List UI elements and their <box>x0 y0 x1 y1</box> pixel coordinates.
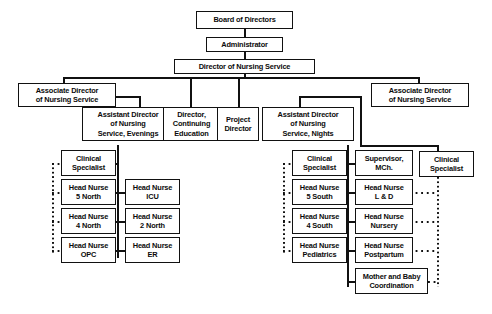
node-director-continuing-education[interactable]: Director, Continuing Education <box>163 107 220 141</box>
node-clinical-specialist-mch[interactable]: Clinical Specialist <box>419 151 474 177</box>
connector-asst-evenings-trunk <box>117 145 119 258</box>
dotted-link-mother-and-baby-coordination <box>428 281 438 283</box>
node-assistant-director-nights[interactable]: Assistant Director of Nursing Service, N… <box>262 107 354 141</box>
connector-assoc-left-to-asst-evenings-h <box>116 96 140 98</box>
connector-administrator-to-dns <box>244 51 246 59</box>
connector-main-bus <box>63 77 420 79</box>
node-head-nurse-5-south[interactable]: Head Nurse 5 South <box>292 179 347 205</box>
node-head-nurse-5-north[interactable]: Head Nurse 5 North <box>61 179 116 205</box>
connector-bus-to-asst-nights <box>299 96 301 107</box>
node-head-nurse-pediatrics[interactable]: Head Nurse Pediatrics <box>292 237 347 263</box>
node-clinical-specialist-evenings[interactable]: Clinical Specialist <box>61 150 116 176</box>
connector-bus-to-project-director <box>238 77 240 107</box>
node-head-nurse-2-north[interactable]: Head Nurse 2 North <box>125 208 180 234</box>
connector-assoc-left-to-asst-evenings-v <box>139 96 141 107</box>
node-clinical-specialist-nights[interactable]: Clinical Specialist <box>292 150 347 176</box>
node-head-nurse-postpartum[interactable]: Head Nurse Postpartum <box>355 237 413 263</box>
node-mother-and-baby-coordination[interactable]: Mother and Baby Coordination <box>355 268 428 294</box>
connector-bus-to-continuing-education <box>190 77 192 107</box>
dotted-link-head-nurse-nursery <box>410 221 438 223</box>
connector-assoc-right-trunk <box>360 96 362 146</box>
node-head-nurse-l-and-d[interactable]: Head Nurse L & D <box>355 179 413 205</box>
dotted-link-head-nurse-postpartum <box>410 250 438 252</box>
dotted-trunk-right-clinical-specialist <box>283 163 285 255</box>
node-supervisor-mch[interactable]: Supervisor, MCh. <box>355 150 413 176</box>
node-associate-director-right[interactable]: Associate Director of Nursing Service <box>371 83 469 107</box>
node-head-nurse-nursery[interactable]: Head Nurse Nursery <box>355 208 413 234</box>
node-associate-director-left[interactable]: Associate Director of Nursing Service <box>18 83 116 107</box>
dotted-trunk-left-clinical-specialist <box>52 163 54 255</box>
node-administrator[interactable]: Administrator <box>206 37 283 52</box>
org-chart: Board of Directors Administrator Directo… <box>0 0 492 314</box>
connector-mch-bus <box>360 145 438 147</box>
node-assistant-director-evenings[interactable]: Assistant Director of Nursing Service, E… <box>82 107 174 141</box>
connector-board-to-administrator <box>244 29 246 37</box>
node-head-nurse-4-north[interactable]: Head Nurse 4 North <box>61 208 116 234</box>
node-head-nurse-icu[interactable]: Head Nurse ICU <box>125 179 180 205</box>
dotted-link-head-nurse-l-and-d <box>410 192 438 194</box>
node-head-nurse-er[interactable]: Head Nurse ER <box>125 237 180 263</box>
node-director-of-nursing-service[interactable]: Director of Nursing Service <box>174 59 315 74</box>
node-head-nurse-4-south[interactable]: Head Nurse 4 South <box>292 208 347 234</box>
node-head-nurse-opc[interactable]: Head Nurse OPC <box>61 237 116 263</box>
node-project-director[interactable]: Project Director <box>217 107 259 141</box>
node-board-of-directors[interactable]: Board of Directors <box>196 11 293 29</box>
connector-assoc-right-bus <box>299 96 362 98</box>
connector-asst-nights-trunk <box>347 145 349 287</box>
